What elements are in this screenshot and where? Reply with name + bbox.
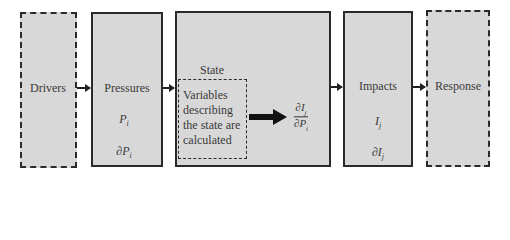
var-sub: j (379, 121, 381, 130)
pressures-label: Pressures (104, 81, 149, 96)
state-inner-text: Variables describing the state are calcu… (183, 88, 245, 148)
impacts-to-response-arrow (413, 86, 425, 88)
fraction-denominator: ∂Pi (294, 118, 308, 133)
pressures-to-state-arrow (163, 87, 174, 89)
var-sub: j (382, 152, 384, 161)
state-derivative-fraction: ∂Ij ∂Pi (294, 101, 308, 132)
drivers-to-pressures-arrow (77, 87, 90, 89)
var-sub: i (127, 119, 129, 128)
var-text: ∂I (372, 145, 382, 159)
den-sub: i (306, 125, 308, 133)
num-sub: j (305, 109, 307, 117)
num-text: ∂I (295, 101, 304, 113)
impacts-var-i: Ij (375, 114, 381, 130)
fraction-numerator: ∂Ij (294, 101, 308, 117)
var-sub: i (130, 151, 132, 160)
pressures-var-dp: ∂Pi (116, 144, 132, 160)
state-to-impacts-arrow (331, 86, 342, 88)
state-label: State (200, 63, 224, 78)
impacts-var-di: ∂Ij (372, 145, 384, 161)
response-label: Response (435, 79, 481, 94)
pressures-var-p: Pi (119, 112, 129, 128)
den-text: ∂P (294, 118, 306, 130)
drivers-label: Drivers (30, 81, 66, 96)
state-big-arrow-icon (249, 109, 287, 125)
impacts-label: Impacts (359, 79, 397, 94)
var-text: ∂P (116, 144, 129, 158)
